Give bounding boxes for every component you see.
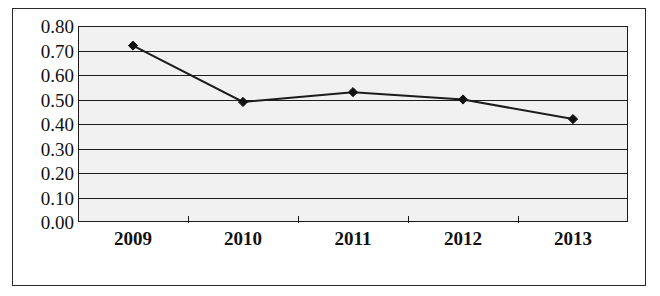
y-tick-label: 0.20	[41, 164, 74, 183]
x-tick-label: 2011	[335, 228, 372, 250]
y-tick-label: 0.70	[41, 41, 74, 60]
data-point-marker	[458, 95, 467, 104]
y-tick-label: 0.30	[41, 139, 74, 158]
x-tick-mark	[518, 216, 519, 223]
y-tick-label: 0.50	[41, 90, 74, 109]
series-line	[133, 46, 573, 120]
x-axis: 20092010201120122013	[78, 228, 628, 258]
x-tick-label: 2009	[114, 228, 152, 250]
line-series	[78, 26, 628, 222]
data-point-marker	[128, 41, 137, 50]
x-axis-tick-marks	[78, 215, 628, 223]
plot-wrapper	[78, 26, 628, 222]
data-point-marker	[238, 97, 247, 106]
x-tick-label: 2013	[554, 228, 592, 250]
y-tick-label: 0.40	[41, 115, 74, 134]
y-tick-label: 0.10	[41, 188, 74, 207]
x-tick-mark	[408, 216, 409, 223]
chart-figure: 0.800.700.600.500.400.300.200.100.00 200…	[0, 0, 660, 296]
x-tick-mark	[188, 216, 189, 223]
x-tick-mark	[298, 216, 299, 223]
x-tick-label: 2010	[224, 228, 262, 250]
data-point-marker	[568, 115, 577, 124]
y-tick-label: 0.80	[41, 17, 74, 36]
y-tick-label: 0.00	[41, 213, 74, 232]
data-point-marker	[348, 88, 357, 97]
x-tick-label: 2012	[444, 228, 482, 250]
y-axis: 0.800.700.600.500.400.300.200.100.00	[18, 26, 74, 222]
y-tick-label: 0.60	[41, 66, 74, 85]
